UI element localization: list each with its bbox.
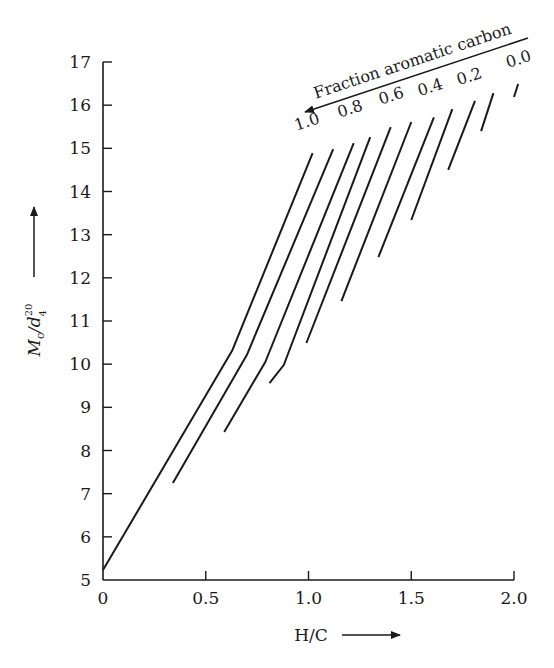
series-line-11 bbox=[514, 84, 518, 97]
series-label: 0.0 bbox=[503, 46, 533, 72]
x-tick-label: 1.5 bbox=[398, 588, 425, 608]
series-line-10 bbox=[481, 93, 493, 131]
y-tick-label: 17 bbox=[69, 52, 91, 72]
axes: 567891011121314151617 00.51.01.52.0 bbox=[69, 52, 527, 608]
y-tick-label: 15 bbox=[69, 138, 91, 158]
x-tick-label: 0 bbox=[98, 588, 109, 608]
x-tick-label: 1.0 bbox=[295, 588, 322, 608]
series-line-8 bbox=[411, 109, 452, 220]
series-line-4 bbox=[270, 137, 371, 383]
y-tick-label: 5 bbox=[80, 570, 91, 590]
series-line-5 bbox=[306, 127, 390, 343]
y-tick-label: 12 bbox=[69, 268, 91, 288]
annotation-text: Fraction aromatic carbon bbox=[311, 19, 514, 102]
y-ticks: 567891011121314151617 bbox=[69, 52, 112, 590]
series-label: 0.4 bbox=[415, 74, 445, 100]
series-label: 0.2 bbox=[454, 63, 484, 89]
x-axis-label-group: H/C bbox=[294, 625, 400, 645]
series-line-1 bbox=[103, 153, 313, 570]
y-tick-label: 13 bbox=[69, 225, 91, 245]
x-tick-label: 2.0 bbox=[500, 588, 527, 608]
y-tick-label: 9 bbox=[80, 397, 91, 417]
chart: 567891011121314151617 00.51.01.52.0 1.00… bbox=[0, 0, 554, 668]
x-tick-label: 0.5 bbox=[192, 588, 219, 608]
series-label: 0.8 bbox=[335, 96, 365, 122]
annotation-group: Fraction aromatic carbon bbox=[305, 19, 528, 112]
y-axis-label: Mc/d204 bbox=[23, 304, 48, 358]
y-tick-label: 16 bbox=[69, 95, 91, 115]
y-tick-label: 11 bbox=[69, 311, 91, 331]
x-ticks: 00.51.01.52.0 bbox=[98, 571, 528, 608]
y-axis-label-group: Mc/d204 bbox=[23, 207, 48, 357]
y-tick-label: 8 bbox=[80, 441, 91, 461]
series-label: 1.0 bbox=[292, 109, 322, 135]
y-tick-label: 6 bbox=[80, 527, 91, 547]
series-line-3 bbox=[224, 143, 354, 432]
x-axis-label: H/C bbox=[294, 625, 328, 645]
series-line-2 bbox=[173, 149, 333, 483]
data-series bbox=[103, 84, 518, 570]
y-tick-label: 14 bbox=[69, 182, 91, 202]
y-tick-label: 10 bbox=[69, 354, 91, 374]
y-tick-label: 7 bbox=[80, 484, 91, 504]
